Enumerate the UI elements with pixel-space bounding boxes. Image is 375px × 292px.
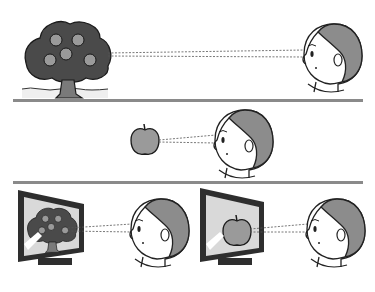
child-figure xyxy=(303,24,362,92)
panel-monitors xyxy=(18,188,365,267)
sightline xyxy=(108,50,305,57)
apple-tree-icon xyxy=(25,22,111,98)
child-figure xyxy=(306,199,365,267)
divider-line xyxy=(13,181,363,184)
divider-line xyxy=(13,99,363,102)
panel-far-tree xyxy=(22,22,362,98)
panel-near-apple xyxy=(131,110,273,178)
child-figure xyxy=(130,199,189,267)
apple-icon xyxy=(131,124,159,154)
monitor-apple xyxy=(200,188,264,265)
illustration-canvas xyxy=(0,0,375,292)
child-figure xyxy=(214,110,273,178)
sightline xyxy=(159,135,216,143)
monitor-tree xyxy=(18,190,84,265)
